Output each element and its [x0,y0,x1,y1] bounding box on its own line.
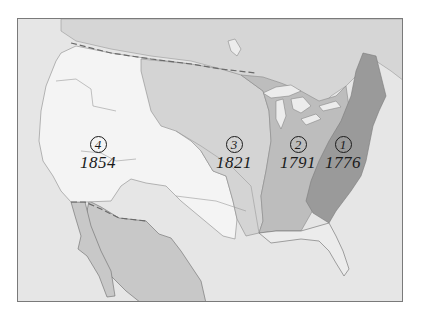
region-2-year: 1791 [280,154,316,172]
region-2-number: 2 [290,136,307,153]
map-frame: 4 1854 3 1821 2 1791 1 1776 [17,18,403,302]
region-3-year: 1821 [216,154,252,172]
region-3-label: 3 1821 [216,135,252,172]
region-1-number: 1 [335,136,352,153]
region-3-number: 3 [226,136,243,153]
region-2-label: 2 1791 [280,135,316,172]
region-1-year: 1776 [325,154,361,172]
region-4-year: 1854 [80,154,116,172]
region-1-label: 1 1776 [325,135,361,172]
region-4-number: 4 [90,136,107,153]
region-4-label: 4 1854 [80,135,116,172]
